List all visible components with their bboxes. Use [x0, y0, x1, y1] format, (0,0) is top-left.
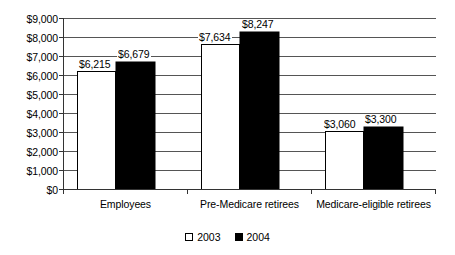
value-label-2003-medicare-eligible-retirees: $3,060 — [323, 119, 357, 130]
value-label-2004-employees: $6,679 — [117, 49, 151, 60]
bar-2003-medicare-eligible-retirees — [326, 132, 364, 190]
legend-entry-2003: 2003 — [185, 231, 220, 243]
legend-label-2003: 2003 — [197, 231, 220, 243]
value-label-2003-employees: $6,215 — [78, 59, 112, 70]
legend-label-2004: 2004 — [247, 231, 270, 243]
bar-2003-employees — [78, 72, 116, 190]
legend-entry-2004: 2004 — [235, 231, 270, 243]
hollow-square-icon — [185, 233, 193, 241]
bar-chart: $9,000 $8,000 $7,000 $6,000 $5,000 $4,00… — [0, 0, 455, 255]
x-axis-label-employees: Employees — [63, 198, 188, 210]
bar-2004-medicare-eligible-retirees — [364, 127, 403, 190]
bar-2003-pre-medicare-retirees — [202, 45, 240, 190]
bar-2004-pre-medicare-retirees — [240, 32, 279, 190]
value-label-2003-pre-medicare-retirees: $7,634 — [198, 32, 232, 43]
value-label-2004-pre-medicare-retirees: $8,247 — [241, 19, 275, 30]
filled-square-icon — [235, 233, 243, 241]
x-axis-label-pre-medicare-retirees: Pre-Medicare retirees — [187, 198, 312, 210]
x-axis-label-medicare-eligible-retirees: Medicare-eligible retirees — [311, 198, 436, 210]
legend: 2003 2004 — [0, 231, 455, 243]
value-label-2004-medicare-eligible-retirees: $3,300 — [364, 114, 398, 125]
y-axis — [59, 18, 64, 190]
bar-2004-employees — [116, 62, 155, 190]
x-axis — [63, 190, 436, 195]
